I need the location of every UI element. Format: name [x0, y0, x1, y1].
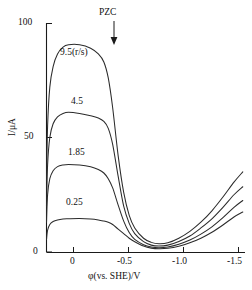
series-label-1.85: 1.85 — [68, 148, 85, 158]
y-tick-label-0: 0 — [33, 247, 38, 257]
series-label-4.5: 4.5 — [71, 97, 83, 107]
figure-polarization-curves: 100 50 0 0 -0.5 -1.0 -1.5 I/μA φ(vs. SHE… — [0, 0, 252, 290]
x-axis-title: φ(vs. SHE)/V — [88, 272, 140, 282]
pzc-arrow-head — [111, 37, 118, 45]
curve-9.5(r/s) — [47, 44, 243, 243]
x-tick-label-0: 0 — [70, 257, 75, 267]
y-tick-label-100: 100 — [18, 18, 32, 28]
series-label-9.5: 9.5(r/s) — [60, 48, 88, 58]
x-tick-label-neg1.0: -1.0 — [172, 257, 187, 267]
x-tick-label-neg0.5: -0.5 — [117, 257, 132, 267]
y-tick-label-50: 50 — [24, 132, 34, 142]
pzc-annotation-label: PZC — [99, 8, 116, 18]
y-axis-title: I/μA — [7, 107, 17, 147]
series-label-0.25: 0.25 — [66, 198, 83, 208]
x-tick-label-neg1.5: -1.5 — [227, 257, 242, 267]
